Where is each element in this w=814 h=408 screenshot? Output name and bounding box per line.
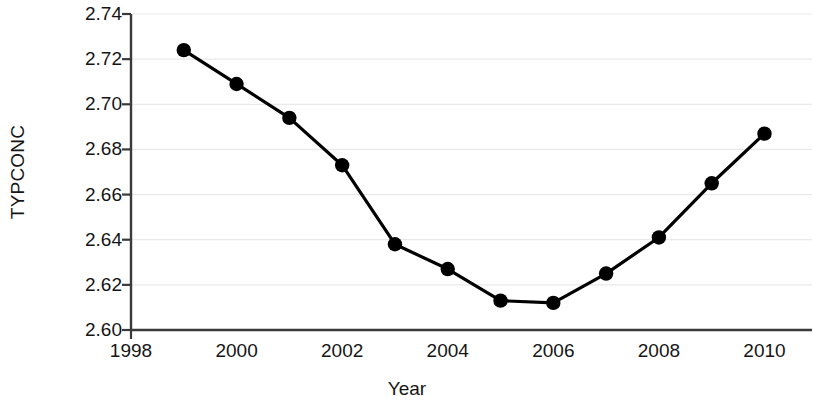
data-point-marker [705,176,719,190]
data-point-marker [599,266,613,280]
data-point-marker [335,158,349,172]
axis-tick-marks [122,14,131,339]
line-chart-plot [0,0,814,408]
data-point-marker [757,126,771,140]
data-point-marker [282,111,296,125]
data-point-marker [493,293,507,307]
series-line [184,50,765,303]
data-point-marker [652,230,666,244]
data-point-marker [177,43,191,57]
gridlines [131,14,812,285]
data-point-marker [229,77,243,91]
series-line-path [184,50,765,303]
chart-figure: TYPCONC 2.602.622.642.662.682.702.722.74… [0,0,814,408]
data-point-marker [546,296,560,310]
data-point-marker [441,262,455,276]
series-markers [177,43,772,310]
data-point-marker [388,237,402,251]
